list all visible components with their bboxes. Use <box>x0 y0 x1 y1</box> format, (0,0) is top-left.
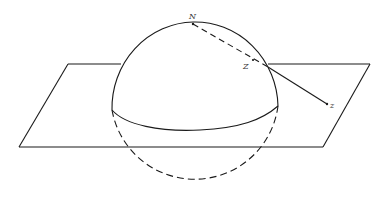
projected-point <box>326 103 328 105</box>
label-sphere-point: Z <box>242 62 249 71</box>
north-pole-point <box>192 23 194 25</box>
sphere-upper-outline <box>112 22 278 110</box>
projection-line-outside <box>268 67 327 104</box>
plane-left-edge <box>19 64 68 147</box>
label-projected-point: z <box>329 101 335 110</box>
sphere-equator <box>112 106 278 130</box>
label-north-pole: N <box>188 12 197 21</box>
stereographic-projection-diagram: N Z z <box>0 0 384 198</box>
sphere-lower-outline-hidden <box>112 106 278 179</box>
sphere-point-z <box>252 59 254 61</box>
plane <box>19 64 370 147</box>
